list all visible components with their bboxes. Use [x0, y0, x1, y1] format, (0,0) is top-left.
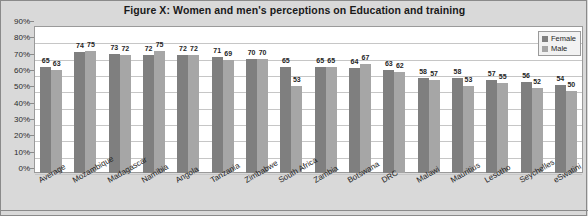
bar-group: 5853: [446, 26, 480, 173]
bar-group: 5755: [480, 26, 514, 173]
bar-value-label: 69: [224, 50, 232, 57]
bar-male: 55: [497, 83, 508, 173]
bar-value-label: 73: [110, 44, 118, 51]
y-axis-tick-label: 90%: [14, 17, 30, 26]
bar-male: 57: [429, 80, 440, 173]
bar-male: 69: [223, 60, 234, 173]
bar-group: 7275: [137, 26, 171, 173]
bar-group: 6553: [274, 26, 308, 173]
bar-male: 62: [394, 72, 405, 173]
bar-value-label: 58: [419, 68, 427, 75]
bar-value-label: 74: [76, 42, 84, 49]
bar-value-label: 65: [316, 57, 324, 64]
bar-value-label: 65: [327, 57, 335, 64]
y-axis-tick-label: 50%: [14, 82, 30, 91]
bar-male: 50: [566, 91, 577, 173]
bar-male: 65: [326, 67, 337, 173]
y-axis-tick-mark: [30, 21, 34, 22]
bar-female: 65: [40, 67, 51, 173]
bar-value-label: 72: [121, 45, 129, 52]
bar-value-label: 65: [42, 57, 50, 64]
bar-male: 53: [463, 86, 474, 173]
y-axis-tick-label: 60%: [14, 66, 30, 75]
bar-female: 65: [315, 67, 326, 173]
bar-group: 6563: [34, 26, 68, 173]
y-axis-tick-label: 80%: [14, 33, 30, 42]
bar-value-label: 72: [179, 45, 187, 52]
y-axis-tick-label: 10%: [14, 147, 30, 156]
bar-female: 63: [383, 70, 394, 173]
bar-group: 7272: [171, 26, 205, 173]
y-axis-tick-label: 30%: [14, 115, 30, 124]
bar-group: 5857: [411, 26, 445, 173]
bar-male: 52: [532, 88, 543, 173]
bar-value-label: 63: [385, 60, 393, 67]
bar-value-label: 58: [454, 68, 462, 75]
bar-value-label: 54: [556, 75, 564, 82]
legend-item[interactable]: Female: [542, 34, 576, 43]
bar-female: 71: [212, 57, 223, 173]
bar-group: 6362: [377, 26, 411, 173]
bar-male: 53: [291, 86, 302, 173]
bar-value-label: 70: [259, 49, 267, 56]
bar-male: 67: [360, 64, 371, 173]
chart-legend: FemaleMale: [538, 31, 581, 56]
bar-female: 58: [452, 78, 463, 173]
bar-female: 56: [521, 82, 532, 173]
bar-male: 72: [188, 55, 199, 173]
bar-male: 75: [154, 51, 165, 174]
bar-group: 7169: [206, 26, 240, 173]
bar-value-label: 75: [156, 41, 164, 48]
legend-item[interactable]: Male: [542, 44, 576, 53]
bar-group: 7070: [240, 26, 274, 173]
bar-value-label: 50: [567, 81, 575, 88]
legend-swatch-male: [542, 46, 548, 52]
bar-value-label: 72: [145, 45, 153, 52]
bar-female: 57: [486, 80, 497, 173]
bar-male: 70: [257, 59, 268, 173]
bar-group: 6565: [309, 26, 343, 173]
bar-female: 58: [418, 78, 429, 173]
y-axis-tick-label: 0%: [18, 164, 30, 173]
bar-value-label: 52: [533, 78, 541, 85]
y-axis-tick-label: 40%: [14, 98, 30, 107]
legend-label: Male: [551, 44, 567, 53]
y-axis-tick-label: 20%: [14, 131, 30, 140]
bar-female: 70: [246, 59, 257, 173]
bar-female: 72: [177, 55, 188, 173]
bar-value-label: 63: [53, 60, 61, 67]
bar-group: 7475: [68, 26, 102, 173]
bar-value-label: 72: [190, 45, 198, 52]
bar-value-label: 57: [430, 70, 438, 77]
bar-value-label: 55: [499, 73, 507, 80]
y-axis: 90%80%70%60%50%40%30%20%10%0%: [1, 21, 34, 174]
bar-female: 64: [349, 68, 360, 173]
bar-value-label: 56: [522, 72, 530, 79]
bar-value-label: 70: [248, 49, 256, 56]
bar-value-label: 53: [293, 76, 301, 83]
bar-value-label: 65: [282, 57, 290, 64]
bottom-divider: [1, 210, 588, 211]
bar-value-label: 53: [465, 76, 473, 83]
bar-value-label: 64: [351, 58, 359, 65]
bar-value-label: 57: [488, 70, 496, 77]
bar-value-label: 62: [396, 62, 404, 69]
bar-female: 65: [280, 67, 291, 173]
y-axis-tick-label: 70%: [14, 49, 30, 58]
legend-swatch-female: [542, 36, 548, 42]
bar-male: 72: [120, 55, 131, 173]
legend-label: Female: [551, 34, 576, 43]
bar-female: 54: [555, 85, 566, 173]
bar-value-label: 71: [213, 47, 221, 54]
bar-group: 6467: [343, 26, 377, 173]
bar-series-group: 6563747573727275727271697070655365656467…: [34, 26, 583, 173]
bar-male: 63: [51, 70, 62, 173]
bar-female: 74: [74, 52, 85, 173]
chart-title: Figure X: Women and men's perceptions on…: [1, 4, 588, 16]
bar-value-label: 67: [362, 54, 370, 61]
bar-value-label: 75: [87, 41, 95, 48]
bar-male: 75: [85, 51, 96, 174]
bar-group: 7372: [103, 26, 137, 173]
